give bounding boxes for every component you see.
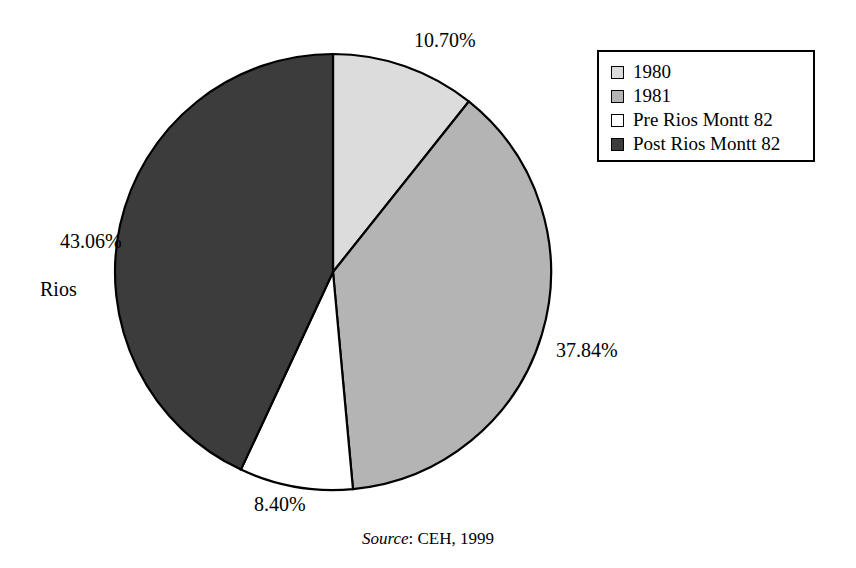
slice-label-1981: 37.84% [556,338,618,362]
pie-slices-group [115,54,551,490]
legend-item-pre-rios-montt[interactable]: Pre Rios Montt 82 [611,108,813,132]
legend-label-1980: 1980 [633,61,671,83]
dark-gray-swatch [611,138,624,151]
slice-label-post-value: 43.06% [60,230,122,252]
chart-legend: 1980 1981 Pre Rios Montt 82 Post Rios Mo… [597,50,815,162]
pie-chart-figure: 10.70% 37.84% 8.40% 43.06% Rios 1980 198… [0,0,856,568]
light-gray-swatch [611,66,624,79]
legend-item-post-rios-montt[interactable]: Post Rios Montt 82 [611,132,813,156]
legend-item-1981[interactable]: 1981 [611,84,813,108]
medium-gray-swatch [611,90,624,103]
source-label: Source [362,529,409,548]
slice-label-post-annotation: Rios [40,277,122,301]
legend-label-1981: 1981 [633,85,671,107]
slice-label-pre-rios-montt: 8.40% [254,492,306,516]
slice-label-1980: 10.70% [414,28,476,52]
slice-label-post-rios-montt: 43.06% Rios [40,205,122,349]
white-swatch [611,114,624,127]
source-caption: Source: CEH, 1999 [0,529,856,549]
source-value: : CEH, 1999 [409,529,494,548]
legend-item-1980[interactable]: 1980 [611,60,813,84]
legend-label-pre-rios-montt: Pre Rios Montt 82 [633,109,773,131]
legend-label-post-rios-montt: Post Rios Montt 82 [633,133,780,155]
